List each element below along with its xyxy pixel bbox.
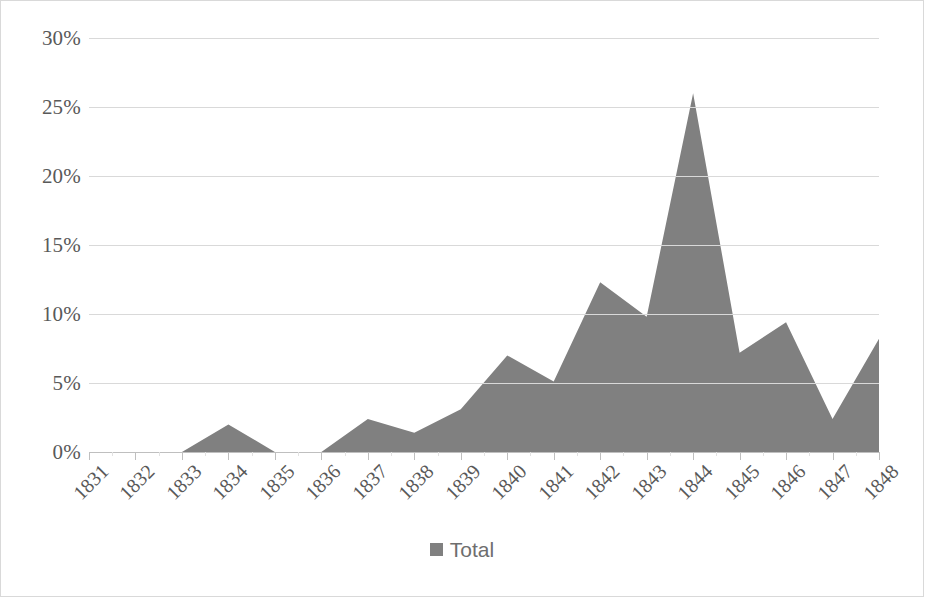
x-tick-minor-6 bbox=[391, 452, 392, 456]
x-tick-minor-4 bbox=[298, 452, 299, 456]
y-axis-label-0: 0% bbox=[3, 442, 81, 463]
x-tick-1843 bbox=[647, 452, 648, 460]
gridline-10 bbox=[89, 314, 879, 315]
x-axis-label-1834: 1834 bbox=[197, 460, 253, 516]
y-axis-label-30: 30% bbox=[3, 28, 81, 49]
y-axis-label-5: 5% bbox=[3, 373, 81, 394]
y-axis-label-20: 20% bbox=[3, 166, 81, 187]
x-axis-label-1835: 1835 bbox=[243, 460, 299, 516]
x-axis-label-1840: 1840 bbox=[476, 460, 532, 516]
x-tick-minor-3 bbox=[252, 452, 253, 456]
x-tick-1845 bbox=[740, 452, 741, 460]
x-tick-minor-2 bbox=[205, 452, 206, 456]
x-tick-minor-0 bbox=[112, 452, 113, 456]
x-tick-1846 bbox=[786, 452, 787, 460]
x-tick-1842 bbox=[600, 452, 601, 460]
x-axis-label-1832: 1832 bbox=[104, 460, 160, 516]
x-tick-1831 bbox=[89, 452, 90, 460]
x-tick-1839 bbox=[461, 452, 462, 460]
gridline-5 bbox=[89, 383, 879, 384]
x-axis-label-1836: 1836 bbox=[290, 460, 346, 516]
x-tick-minor-10 bbox=[577, 452, 578, 456]
plot-area bbox=[89, 38, 879, 452]
x-tick-1847 bbox=[833, 452, 834, 460]
x-tick-1835 bbox=[275, 452, 276, 460]
x-axis-label-1838: 1838 bbox=[383, 460, 439, 516]
x-tick-1837 bbox=[368, 452, 369, 460]
x-tick-1832 bbox=[135, 452, 136, 460]
x-tick-minor-12 bbox=[670, 452, 671, 456]
x-tick-1838 bbox=[414, 452, 415, 460]
x-axis-label-1847: 1847 bbox=[801, 460, 857, 516]
x-tick-minor-8 bbox=[484, 452, 485, 456]
chart-container: 30%25%20%15%10%5%0% 18311832183318341835… bbox=[0, 0, 924, 597]
gridline-15 bbox=[89, 245, 879, 246]
x-tick-minor-16 bbox=[856, 452, 857, 456]
x-tick-minor-7 bbox=[438, 452, 439, 456]
x-tick-1844 bbox=[693, 452, 694, 460]
x-axis-label-1837: 1837 bbox=[336, 460, 392, 516]
y-axis-label-25: 25% bbox=[3, 97, 81, 118]
x-tick-minor-15 bbox=[809, 452, 810, 456]
x-tick-minor-1 bbox=[159, 452, 160, 456]
x-axis-label-1833: 1833 bbox=[150, 460, 206, 516]
x-tick-minor-14 bbox=[763, 452, 764, 456]
legend-swatch-total bbox=[430, 543, 443, 556]
x-axis-label-1848: 1848 bbox=[847, 460, 903, 516]
gridline-25 bbox=[89, 107, 879, 108]
x-tick-1841 bbox=[554, 452, 555, 460]
x-axis-label-1839: 1839 bbox=[429, 460, 485, 516]
x-tick-1834 bbox=[228, 452, 229, 460]
x-axis-label-1842: 1842 bbox=[569, 460, 625, 516]
x-axis-label-1845: 1845 bbox=[708, 460, 764, 516]
x-axis-label-1843: 1843 bbox=[615, 460, 671, 516]
y-axis-label-10: 10% bbox=[3, 304, 81, 325]
y-axis: 30%25%20%15%10%5%0% bbox=[1, 1, 81, 471]
x-axis-label-1846: 1846 bbox=[754, 460, 810, 516]
x-tick-minor-5 bbox=[345, 452, 346, 456]
x-tick-minor-9 bbox=[530, 452, 531, 456]
x-axis-labels: 1831183218331834183518361837183818391840… bbox=[89, 460, 879, 530]
x-tick-1840 bbox=[507, 452, 508, 460]
x-tick-minor-11 bbox=[623, 452, 624, 456]
x-tick-1836 bbox=[321, 452, 322, 460]
legend-label-total: Total bbox=[450, 539, 494, 560]
y-axis-label-15: 15% bbox=[3, 235, 81, 256]
x-tick-minor-13 bbox=[716, 452, 717, 456]
gridline-30 bbox=[89, 38, 879, 39]
x-axis-label-1841: 1841 bbox=[522, 460, 578, 516]
chart-legend: Total bbox=[1, 539, 923, 560]
gridline-20 bbox=[89, 176, 879, 177]
x-axis-label-1844: 1844 bbox=[662, 460, 718, 516]
x-tick-1833 bbox=[182, 452, 183, 460]
x-tick-1848 bbox=[879, 452, 880, 460]
